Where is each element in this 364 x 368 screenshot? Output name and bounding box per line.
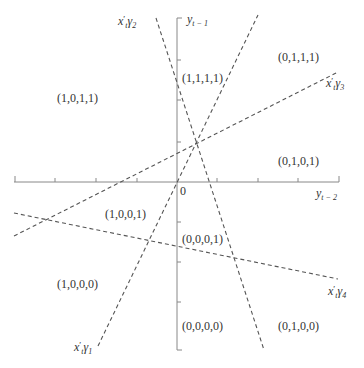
line-gamma2 [156,18,264,350]
region-label-1111: (1,1,1,1) [182,71,223,86]
region-label-0100: (0,1,0,0) [278,319,319,334]
region-label-0000: (0,0,0,0) [182,319,223,334]
origin-label: 0 [180,184,186,199]
y-axis-label: yt − 1 [187,12,208,28]
line-gamma4 [14,213,338,279]
region-label-1011: (1,0,1,1) [57,91,98,106]
region-label-0101: (0,1,0,1) [278,154,319,169]
region-label-0001: (0,0,0,1) [182,232,223,247]
line-gamma1 [98,15,258,346]
x-axis-label: yt − 2 [316,186,337,202]
region-label-1000: (1,0,0,0) [57,277,98,292]
region-label-1001: (1,0,0,1) [105,207,146,222]
region-label-0111: (0,1,1,1) [278,50,319,65]
line-label-gamma1: x′tγ1 [74,340,92,356]
line-label-gamma2: x′tγ2 [118,14,136,30]
line-label-gamma3: x′tγ3 [326,76,344,92]
line-label-gamma4: x′tγ4 [328,284,346,300]
